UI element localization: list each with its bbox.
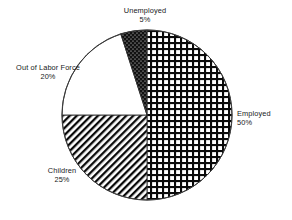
pie-slice-employed — [147, 30, 232, 200]
pie-label-children-value: 25% — [30, 175, 94, 184]
pie-label-children-name: Children — [30, 166, 94, 175]
pie-label-employed-value: 50% — [237, 118, 289, 127]
pie-chart: Unemployed 5% Out of Labor Force 20% Emp… — [0, 0, 292, 220]
pie-label-unemployed-value: 5% — [104, 15, 186, 24]
pie-slice-children — [62, 115, 147, 200]
pie-label-employed-name: Employed — [237, 109, 289, 118]
pie-label-unemployed: Unemployed 5% — [104, 6, 186, 24]
pie-label-out-of-labor-force-name: Out of Labor Force — [6, 63, 90, 72]
pie-label-out-of-labor-force-value: 20% — [6, 72, 90, 81]
pie-label-employed: Employed 50% — [237, 109, 289, 127]
pie-label-children: Children 25% — [30, 166, 94, 184]
pie-label-out-of-labor-force: Out of Labor Force 20% — [6, 63, 90, 81]
pie-label-unemployed-name: Unemployed — [104, 6, 186, 15]
